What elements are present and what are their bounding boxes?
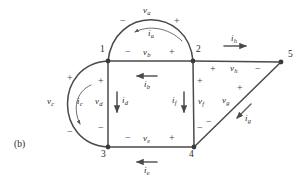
sign-vd-minus: − (98, 123, 104, 133)
node-label-5: 5 (288, 50, 293, 60)
voltage-label-vg: vg (222, 96, 229, 105)
edge-branch-f (193, 61, 194, 147)
sign-vh-minus: − (255, 64, 261, 74)
sign-ve-minus: − (125, 133, 131, 143)
node-label-1: 1 (100, 45, 105, 55)
current-arrow-ia (135, 28, 182, 41)
voltage-vh-subscript: h (234, 67, 237, 74)
current-label-ia: ia (148, 29, 154, 38)
sign-vg-plus: + (237, 83, 243, 93)
voltage-vc-subscript: c (51, 100, 54, 107)
current-label-ig: ig (245, 114, 251, 123)
current-id-subscript: d (125, 99, 128, 106)
voltage-label-ve: ve (143, 134, 150, 143)
node-label-4: 4 (189, 150, 194, 160)
sign-vc-minus: − (67, 127, 73, 137)
sign-vb-minus: − (125, 47, 131, 57)
circuit-graph-svg (0, 0, 303, 181)
current-label-ie: ie (144, 166, 149, 175)
voltage-vd-subscript: d (99, 100, 102, 107)
current-ib-subscript: b (147, 83, 150, 90)
sign-vb-plus: + (169, 47, 175, 57)
current-label-ic: ic (77, 97, 82, 106)
sign-vd-plus: + (98, 76, 104, 86)
sign-va-minus: − (120, 16, 126, 26)
voltage-label-vb: vb (143, 48, 150, 57)
current-label-ih: ih (231, 34, 237, 43)
voltage-label-va: va (143, 6, 150, 15)
edge-branch-g (194, 62, 281, 147)
sign-ve-plus: + (169, 133, 175, 143)
node-2-dot (191, 59, 196, 64)
node-label-2: 2 (196, 45, 201, 55)
current-ig-subscript: g (248, 117, 251, 124)
sign-vf-minus: − (197, 123, 203, 133)
current-label-ib: ib (144, 80, 150, 89)
voltage-label-vc: vc (47, 97, 54, 106)
current-ih-subscript: h (234, 37, 237, 44)
voltage-label-vf: vf (198, 97, 204, 106)
current-label-if: if (172, 96, 176, 105)
voltage-vg-subscript: g (226, 99, 229, 106)
sign-vf-plus: + (197, 76, 203, 86)
current-ic-subscript: c (80, 100, 83, 107)
sign-vg-minus: − (206, 117, 212, 127)
current-if-subscript: f (175, 99, 177, 106)
voltage-ve-subscript: e (147, 137, 150, 144)
voltage-va-subscript: a (147, 9, 150, 16)
node-1-dot (106, 59, 111, 64)
voltage-vb-subscript: b (147, 51, 150, 58)
current-ie-subscript: e (147, 169, 150, 176)
node-label-3: 3 (101, 150, 106, 160)
voltage-label-vd: vd (95, 97, 102, 106)
node-5-dot (279, 60, 284, 65)
voltage-label-vh: vh (230, 64, 237, 73)
sign-vc-plus: + (67, 73, 73, 83)
circuit-figure: (b) 1 2 3 4 5 va vb vc vd ve vf vg vh ia… (0, 0, 303, 181)
voltage-vf-subscript: f (202, 100, 204, 107)
panel-label: (b) (14, 140, 25, 150)
sign-va-plus: + (174, 16, 180, 26)
node-3-dot (106, 145, 111, 150)
edge-branch-h (193, 61, 281, 62)
current-ia-subscript: a (151, 32, 154, 39)
current-label-id: id (122, 96, 128, 105)
sign-vh-plus: + (210, 64, 216, 74)
